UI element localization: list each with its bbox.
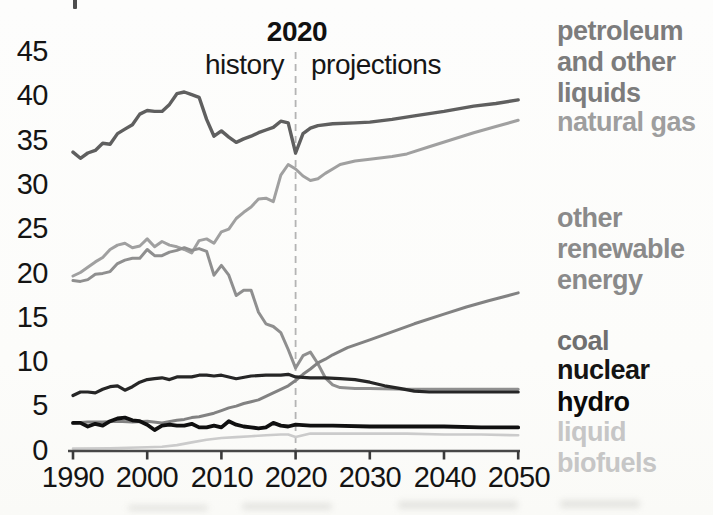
y-tick-label: 30: [0, 167, 48, 201]
cropped-caption-smudge: [128, 505, 208, 511]
y-tick-label: 25: [0, 211, 48, 245]
series-label-line: energy: [557, 265, 713, 296]
series-label-line: renewable: [557, 234, 713, 265]
cropped-caption-smudge: [242, 503, 332, 510]
series-label-line: liquids: [557, 78, 713, 109]
y-tick-label: 5: [0, 388, 48, 422]
x-tick-label: 2050: [474, 461, 564, 493]
cropped-text-fragment: [73, 0, 77, 9]
y-tick-label: 35: [0, 123, 48, 157]
series-label-line: petroleum: [557, 16, 713, 47]
history-label: history: [134, 49, 284, 81]
series-label-line: other: [557, 203, 713, 234]
series-label-line: and other: [557, 47, 713, 78]
divider-year-label: 2020: [236, 16, 358, 48]
energy-consumption-chart: 45 40 35 30 25 20 15 10 5 0 1990 2000 20…: [0, 0, 713, 515]
y-tick-label: 45: [0, 34, 48, 68]
series-label-natural-gas: natural gas: [557, 107, 713, 138]
series-label-line: nuclear: [557, 355, 713, 386]
projections-label: projections: [311, 49, 531, 81]
cropped-caption-smudge: [398, 501, 518, 509]
series-label-line: hydro: [557, 387, 713, 418]
series-label-other-renewable-energy: other renewable energy: [557, 203, 713, 296]
series-label-line: biofuels: [557, 448, 713, 479]
y-tick-label: 20: [0, 256, 48, 290]
series-label-nuclear: nuclear: [557, 355, 713, 386]
y-tick-label: 15: [0, 300, 48, 334]
series-label-hydro: hydro: [557, 387, 713, 418]
series-label-line: coal: [557, 326, 713, 357]
series-label-line: natural gas: [557, 107, 713, 138]
series-label-coal: coal: [557, 326, 713, 357]
y-tick-label: 10: [0, 344, 48, 378]
y-tick-label: 40: [0, 78, 48, 112]
series-label-line: liquid: [557, 417, 713, 448]
cropped-caption-smudge: [560, 500, 640, 508]
series-label-petroleum-and-other-liquids: petroleum and other liquids: [557, 16, 713, 109]
series-label-liquid-biofuels: liquid biofuels: [557, 417, 713, 479]
